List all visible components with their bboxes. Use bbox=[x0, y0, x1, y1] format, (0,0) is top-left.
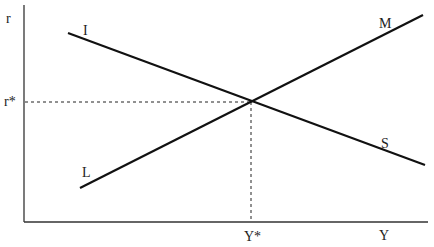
lm-end-label: M bbox=[379, 16, 392, 31]
is-lm-diagram: r Y r* Y* I S L M bbox=[0, 0, 434, 247]
y-star-label: Y* bbox=[244, 229, 261, 244]
is-end-label: S bbox=[381, 136, 389, 151]
x-axis-label: Y bbox=[379, 228, 389, 243]
lm-start-label: L bbox=[82, 165, 91, 180]
y-axis-label: r bbox=[6, 11, 11, 26]
is-curve bbox=[68, 33, 425, 165]
is-start-label: I bbox=[83, 23, 88, 38]
r-star-label: r* bbox=[4, 94, 16, 109]
